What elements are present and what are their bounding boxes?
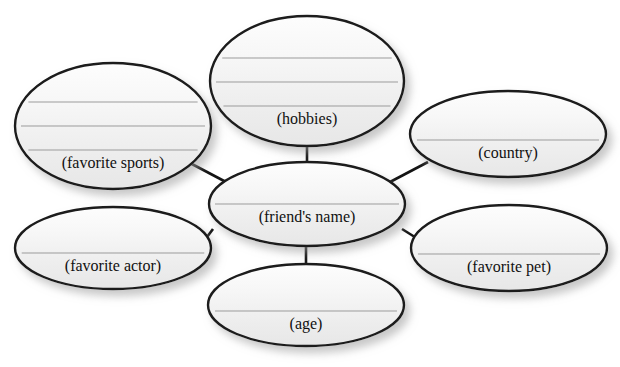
node-favorite-pet[interactable]: (favorite pet) (411, 205, 607, 291)
node-favorite-sports[interactable]: (favorite sports) (15, 63, 211, 189)
nodes-layer: (hobbies)(favorite sports)(country)(favo… (15, 16, 607, 346)
node-age[interactable]: (age) (208, 264, 404, 346)
concept-map-svg: (hobbies)(favorite sports)(country)(favo… (0, 0, 620, 367)
node-label-favorite-sports: (favorite sports) (62, 154, 165, 172)
node-label-favorite-pet: (favorite pet) (467, 258, 551, 276)
node-label-hobbies: (hobbies) (277, 110, 337, 128)
node-shape-age[interactable] (208, 264, 404, 346)
connector-center-to-favorite-sports (190, 163, 226, 182)
node-label-favorite-actor: (favorite actor) (65, 257, 161, 275)
node-friends-name[interactable]: (friend's name) (209, 162, 405, 246)
node-shape-country[interactable] (410, 91, 606, 177)
node-label-country: (country) (478, 144, 538, 162)
node-label-friends-name: (friend's name) (259, 208, 356, 226)
node-favorite-actor[interactable]: (favorite actor) (15, 207, 211, 289)
node-country[interactable]: (country) (410, 91, 606, 177)
node-shape-favorite-pet[interactable] (411, 205, 607, 291)
node-shape-favorite-actor[interactable] (15, 207, 211, 289)
node-hobbies[interactable]: (hobbies) (210, 16, 404, 146)
node-label-age: (age) (290, 315, 323, 333)
diagram-canvas: p y (hobbies)(favorite sports)(country)(… (0, 0, 620, 367)
connector-center-to-country (390, 162, 428, 182)
